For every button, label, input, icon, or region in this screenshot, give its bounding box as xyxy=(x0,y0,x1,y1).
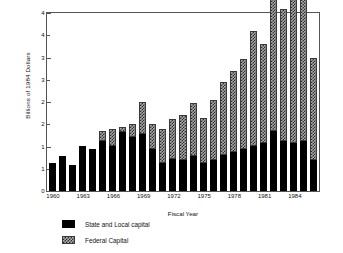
y-tick: 1 xyxy=(47,147,51,148)
bar-segment-state-local xyxy=(139,134,146,191)
x-tick-label: 1966 xyxy=(107,193,120,200)
y-tick-label: 2 xyxy=(41,121,44,128)
bar-1964[interactable] xyxy=(89,149,96,191)
y-tick-label: 0 xyxy=(41,188,44,195)
x-tick-label: 1972 xyxy=(167,193,180,200)
bar-segment-state-local xyxy=(169,159,176,191)
bar-segment-federal xyxy=(99,131,106,141)
bar-segment-state-local xyxy=(280,141,287,191)
bar-segment-state-local xyxy=(79,146,86,191)
bar-segment-federal xyxy=(179,115,186,160)
bar-segment-state-local xyxy=(300,141,307,191)
bar-1967[interactable] xyxy=(119,127,126,191)
bar-1970[interactable] xyxy=(149,124,156,191)
y-tick: 0 xyxy=(47,191,51,192)
bar-1978[interactable] xyxy=(230,71,237,191)
bar-1963[interactable] xyxy=(79,146,86,191)
bar-1986[interactable] xyxy=(310,58,317,192)
legend-item-state-local: State and Local capital xyxy=(62,216,262,232)
legend-label-state-local: State and Local capital xyxy=(85,221,150,228)
x-tick-label: 1981 xyxy=(258,193,271,200)
bar-segment-state-local xyxy=(149,149,156,191)
bar-1968[interactable] xyxy=(129,124,136,191)
bar-segment-state-local xyxy=(240,149,247,191)
x-tick-label: 1978 xyxy=(228,193,241,200)
bar-segment-state-local xyxy=(109,146,116,191)
bar-segment-federal xyxy=(109,129,116,146)
y-tick: 3 xyxy=(47,80,50,81)
bar-segment-federal xyxy=(270,0,277,131)
bar-segment-state-local xyxy=(159,163,166,191)
bar-segment-federal xyxy=(310,58,317,160)
y-tick: 4 xyxy=(47,35,50,36)
bar-1979[interactable] xyxy=(240,59,247,191)
y-tick: 3 xyxy=(47,58,51,59)
bar-segment-state-local xyxy=(270,131,277,191)
bar-1961[interactable] xyxy=(59,156,66,191)
y-tick: 4 xyxy=(47,13,51,14)
bar-segment-federal xyxy=(139,102,146,134)
bar-1982[interactable] xyxy=(270,0,277,191)
legend-swatch-federal-icon xyxy=(62,236,75,244)
y-tick-label: 1 xyxy=(41,144,44,151)
bar-segment-state-local xyxy=(59,156,66,191)
y-tick-label: 2 xyxy=(41,99,44,106)
y-axis-title: Billions of 1984 Dollars xyxy=(24,11,31,161)
y-tick-label: 1 xyxy=(41,166,44,173)
bar-segment-federal xyxy=(280,9,287,142)
legend-item-federal: Federal Capital xyxy=(62,232,262,248)
bar-1983[interactable] xyxy=(280,9,287,191)
bar-1974[interactable] xyxy=(190,103,197,191)
x-tick-label: 1969 xyxy=(137,193,150,200)
bar-1976[interactable] xyxy=(210,100,217,191)
bar-segment-federal xyxy=(300,0,307,141)
bar-segment-state-local xyxy=(310,160,317,191)
bar-segment-federal xyxy=(200,118,207,163)
bar-segment-state-local xyxy=(119,132,126,191)
bar-segment-federal xyxy=(220,82,227,154)
chart-figure: Billions of 1984 Dollars 011223344 19601… xyxy=(0,0,343,253)
bar-1962[interactable] xyxy=(69,165,76,191)
y-tick-label: 4 xyxy=(41,10,44,17)
chart-legend: State and Local capital Federal Capital xyxy=(62,216,262,248)
bar-segment-federal xyxy=(260,44,267,143)
bar-1965[interactable] xyxy=(99,131,106,191)
bar-segment-federal xyxy=(190,103,197,156)
bar-1960[interactable] xyxy=(49,163,56,191)
bar-segment-state-local xyxy=(250,146,257,191)
bar-segment-federal xyxy=(210,100,217,160)
bar-1975[interactable] xyxy=(200,118,207,191)
bar-segment-state-local xyxy=(290,143,297,191)
x-tick-label: 1984 xyxy=(288,193,301,200)
bar-1980[interactable] xyxy=(250,31,257,191)
x-tick-label: 1960 xyxy=(46,193,59,200)
bar-segment-state-local xyxy=(69,165,76,191)
bar-segment-federal xyxy=(290,0,297,143)
y-tick: 2 xyxy=(47,102,51,103)
y-tick-label: 3 xyxy=(41,55,44,62)
bar-1985[interactable] xyxy=(300,0,307,191)
bar-segment-federal xyxy=(230,71,237,152)
bar-1984[interactable] xyxy=(290,0,297,191)
bar-segment-federal xyxy=(240,59,247,149)
bar-1977[interactable] xyxy=(220,82,227,191)
bar-segment-state-local xyxy=(129,137,136,191)
legend-label-federal: Federal Capital xyxy=(85,237,128,244)
bar-segment-federal xyxy=(149,124,156,148)
x-tick-label: 1963 xyxy=(77,193,90,200)
bar-1981[interactable] xyxy=(260,44,267,191)
bar-1969[interactable] xyxy=(139,102,146,191)
bar-1971[interactable] xyxy=(159,129,166,191)
bar-segment-federal xyxy=(129,124,136,136)
bar-1973[interactable] xyxy=(179,115,186,191)
bar-segment-federal xyxy=(169,119,176,159)
bar-segment-state-local xyxy=(190,156,197,191)
bar-1972[interactable] xyxy=(169,119,176,191)
bar-segment-state-local xyxy=(49,163,56,191)
bar-segment-state-local xyxy=(89,149,96,191)
bar-1966[interactable] xyxy=(109,129,116,191)
bar-segment-federal xyxy=(159,129,166,164)
bar-segment-state-local xyxy=(99,141,106,191)
bar-segment-state-local xyxy=(179,160,186,191)
bar-segment-state-local xyxy=(210,160,217,191)
